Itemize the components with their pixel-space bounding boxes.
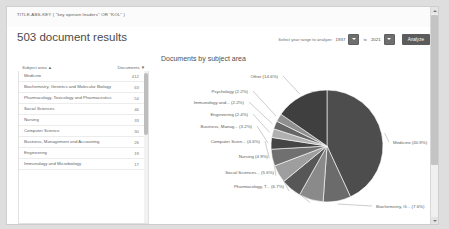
pie-slice-label: Computer Scien... (4.6%) bbox=[211, 139, 261, 144]
table-cell-subject-area: Biochemistry, Genetics and Molecular Bio… bbox=[24, 84, 111, 90]
table-row[interactable]: Engineering19 bbox=[19, 148, 144, 159]
table-row[interactable]: Biochemistry, Genetics and Molecular Bio… bbox=[19, 82, 144, 93]
pie-slice-label: Nursing (4.9%) bbox=[239, 154, 269, 159]
pie-chart-svg: Medicine (40.9%)Biochemistry, G... (7.6%… bbox=[159, 64, 437, 224]
query-bar: TITLE-ABS-KEY ( "key opinion leaders" OR… bbox=[7, 7, 438, 28]
table-cell-documents: 30 bbox=[134, 129, 139, 134]
year-from-value: 1937 bbox=[336, 37, 346, 42]
pie-leader-line bbox=[253, 114, 270, 132]
year-range-label: Select year range to analyze: bbox=[278, 37, 332, 42]
subject-area-table: Subject area▲ Documents▼ Medicine412Bioc… bbox=[18, 59, 149, 224]
year-to-value: 2021 bbox=[371, 37, 381, 42]
year-range-separator: to bbox=[362, 37, 368, 42]
chart-title: Documents by subject area bbox=[161, 55, 426, 62]
table-cell-subject-area: Engineering bbox=[24, 150, 47, 156]
table-body: Medicine412Biochemistry, Genetics and Mo… bbox=[18, 71, 149, 224]
table-row[interactable]: Nursing33 bbox=[19, 115, 144, 126]
pie-slice-label: Immunology and... (2.2%) bbox=[194, 100, 245, 105]
pie-leader-line bbox=[249, 102, 272, 124]
sidebar-scrollbar-thumb[interactable] bbox=[144, 73, 148, 135]
sort-ascending-caret-icon: ▲ bbox=[48, 65, 52, 70]
analyze-button[interactable]: Analyze bbox=[402, 34, 430, 45]
pie-leader-line bbox=[283, 76, 300, 94]
pie-slice-label: Biochemistry, G... (7.6%) bbox=[376, 204, 425, 209]
table-cell-subject-area: Pharmacology, Toxicology and Pharmaceuti… bbox=[24, 95, 112, 101]
table-cell-documents: 46 bbox=[134, 107, 139, 112]
pie-slice-label: Engineering (2.4%) bbox=[210, 112, 248, 117]
pie-slice-label: Business, Manag... (3.2%) bbox=[201, 124, 253, 129]
table-row[interactable]: Computer Science30 bbox=[19, 126, 144, 137]
scroll-down-arrow-icon[interactable] bbox=[431, 217, 438, 224]
pie-slice-label: Psychology (2.2%) bbox=[211, 89, 248, 94]
table-cell-documents: 26 bbox=[134, 140, 139, 145]
table-cell-documents: 19 bbox=[134, 151, 139, 156]
table-cell-documents: 33 bbox=[134, 118, 139, 123]
table-cell-subject-area: Business, Management and Accounting bbox=[24, 139, 99, 145]
column-header-documents[interactable]: Documents▼ bbox=[117, 65, 145, 70]
results-header: 503 document results Select year range t… bbox=[7, 27, 438, 52]
table-cell-subject-area: Nursing bbox=[24, 117, 39, 123]
table-cell-documents: 412 bbox=[132, 74, 139, 79]
table-cell-documents: 54 bbox=[134, 96, 139, 101]
table-cell-documents: 63 bbox=[134, 85, 139, 90]
page-scrollbar[interactable] bbox=[430, 7, 438, 224]
sort-descending-caret-icon: ▼ bbox=[141, 65, 145, 70]
table-cell-subject-area: Medicine bbox=[24, 73, 41, 79]
chart-panel: Documents by subject area Medicine (40.9… bbox=[159, 55, 426, 224]
table-row[interactable]: Pharmacology, Toxicology and Pharmaceuti… bbox=[19, 93, 144, 104]
pie-leader-line bbox=[338, 204, 372, 206]
table-cell-documents: 17 bbox=[134, 162, 139, 167]
table-cell-subject-area: Social Sciences bbox=[24, 106, 54, 112]
table-row[interactable]: Business, Management and Accounting26 bbox=[19, 137, 144, 148]
table-row[interactable]: Social Sciences46 bbox=[19, 104, 144, 115]
sidebar-scrollbar[interactable] bbox=[144, 71, 148, 223]
pie-slice-label: Medicine (40.9%) bbox=[393, 140, 428, 145]
pie-slice-label: Pharmacology, T... (6.7%) bbox=[234, 184, 285, 189]
table-cell-subject-area: Computer Science bbox=[24, 128, 59, 134]
page-scrollbar-thumb[interactable] bbox=[431, 15, 438, 165]
chevron-down-icon-to[interactable] bbox=[384, 34, 395, 45]
table-cell-subject-area: Immunology and Microbiology bbox=[24, 161, 81, 167]
table-row[interactable]: Medicine412 bbox=[19, 71, 144, 82]
scroll-up-arrow-icon[interactable] bbox=[431, 7, 438, 14]
page-title: 503 document results bbox=[17, 31, 127, 43]
chevron-down-icon-from[interactable] bbox=[348, 34, 359, 45]
year-range-control: Select year range to analyze: 1937 to 20… bbox=[278, 32, 430, 46]
pie-slice-label: Social Sciences... (5.6%) bbox=[225, 170, 274, 175]
pie-leader-line bbox=[253, 91, 276, 116]
pie-chart[interactable]: Medicine (40.9%)Biochemistry, G... (7.6%… bbox=[159, 64, 426, 224]
search-query-text: TITLE-ABS-KEY ( "key opinion leaders" OR… bbox=[17, 12, 125, 17]
table-rows-scroll-region[interactable]: Medicine412Biochemistry, Genetics and Mo… bbox=[19, 71, 144, 223]
page-canvas: TITLE-ABS-KEY ( "key opinion leaders" OR… bbox=[6, 6, 439, 225]
content-area: Subject area▲ Documents▼ Medicine412Bioc… bbox=[7, 51, 438, 224]
desktop-background: TITLE-ABS-KEY ( "key opinion leaders" OR… bbox=[0, 0, 449, 229]
column-header-subject-area[interactable]: Subject area▲ bbox=[22, 65, 52, 70]
pie-leader-line bbox=[385, 133, 389, 142]
table-row[interactable]: Immunology and Microbiology17 bbox=[19, 159, 144, 170]
pie-slice-label: Other (14.6%) bbox=[250, 74, 278, 79]
